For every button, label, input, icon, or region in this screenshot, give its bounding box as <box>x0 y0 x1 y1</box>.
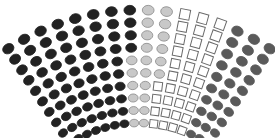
seat-dark <box>87 9 100 21</box>
seat-dark <box>96 110 107 120</box>
seat-square <box>202 54 214 66</box>
seat-dark <box>55 71 68 83</box>
seat-square <box>177 86 188 97</box>
seat-grey <box>215 116 228 128</box>
seat-square <box>193 25 205 37</box>
seat-light <box>126 56 137 65</box>
seat-dark <box>92 34 105 45</box>
seat-square <box>149 119 158 128</box>
seat-grey <box>206 110 219 122</box>
seat-dark <box>107 108 118 118</box>
seat-square <box>153 82 163 92</box>
seat-square <box>159 121 168 130</box>
seat-dark <box>97 58 109 69</box>
seat-dark <box>8 52 23 66</box>
seat-grey <box>229 66 243 79</box>
seat-dark <box>59 42 73 54</box>
seat-dark <box>60 82 73 94</box>
seat-square <box>152 94 161 103</box>
seat-light <box>127 81 137 90</box>
seat-light <box>127 68 138 77</box>
seat-dark <box>108 31 120 41</box>
seat-dark <box>118 107 128 116</box>
seat-grey <box>215 59 229 72</box>
seat-dark <box>48 88 61 100</box>
seat-grey <box>217 88 230 100</box>
seat-grey <box>190 117 202 128</box>
seat-dark <box>102 83 114 93</box>
seat-square <box>187 49 198 60</box>
seat-square <box>177 126 187 136</box>
seat-light <box>159 19 171 30</box>
seat-square <box>181 74 192 85</box>
seat-dark <box>55 30 69 43</box>
seat-light <box>160 6 173 17</box>
seat-grey <box>200 94 213 106</box>
seat-dark <box>44 47 58 60</box>
seat-grey <box>225 36 239 49</box>
seat-dark <box>79 49 92 61</box>
seat-dark <box>105 6 118 17</box>
seat-square <box>184 61 195 72</box>
parliament-chart <box>0 0 275 138</box>
seat-dark <box>22 74 36 87</box>
seat-dark <box>43 106 56 118</box>
seat-dark <box>15 63 29 77</box>
seat-light <box>156 44 168 54</box>
seat-light <box>139 119 149 127</box>
seat-square <box>168 123 178 133</box>
seat-light <box>129 106 139 114</box>
seat-dark <box>107 19 119 30</box>
seat-dark <box>86 113 98 124</box>
seat-grey <box>200 122 212 133</box>
seat-dark <box>39 36 53 49</box>
seat-dark <box>93 98 105 108</box>
seat-dark <box>86 74 98 85</box>
seat-dark <box>100 123 111 133</box>
seat-grey <box>249 63 263 77</box>
seat-dark <box>90 125 101 135</box>
seat-grey <box>246 32 261 46</box>
seat-square <box>197 12 209 24</box>
seat-dark <box>23 43 38 57</box>
seat-dark <box>76 117 88 128</box>
seat-square <box>210 30 222 42</box>
seat-square <box>193 78 204 89</box>
seat-grey <box>223 77 237 90</box>
seat-dark <box>124 5 136 15</box>
seat-square <box>151 107 160 116</box>
seat-light <box>141 30 153 40</box>
seat-dark <box>89 21 102 32</box>
seat-square <box>170 58 181 69</box>
seat-square <box>189 90 200 101</box>
seat-grey <box>210 71 223 83</box>
seat-dark <box>73 78 86 90</box>
seat-light <box>129 119 139 127</box>
seat-light <box>140 68 151 77</box>
seat-dark <box>81 129 93 138</box>
seat-grey <box>241 43 256 57</box>
seat-light <box>142 18 154 28</box>
seat-dark <box>68 65 81 77</box>
seat-dark <box>35 66 49 79</box>
seat-square <box>161 108 170 117</box>
seat-grey <box>235 55 249 68</box>
seat-grey <box>262 41 275 56</box>
seat-dark <box>66 122 78 133</box>
seat-square <box>163 96 173 106</box>
seat-grey <box>236 84 250 97</box>
seat-square <box>174 98 184 108</box>
seat-square <box>172 46 183 57</box>
seat-dark <box>110 44 122 54</box>
seat-dark <box>36 95 49 108</box>
seat-dark <box>89 86 101 97</box>
seat-dark <box>77 89 89 100</box>
seat-light <box>128 94 138 102</box>
seat-grey <box>242 74 256 87</box>
seat-square <box>206 42 218 54</box>
seat-dark <box>113 69 124 79</box>
seat-grey <box>222 106 235 118</box>
seat-dark <box>126 43 137 52</box>
seat-dark <box>68 12 82 24</box>
seat-dark <box>110 121 121 130</box>
